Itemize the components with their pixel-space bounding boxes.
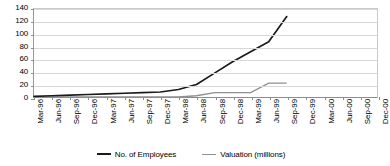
x-axis-tick-label: Dec-00 <box>381 99 390 124</box>
x-axis-tick-label: Jun-96 <box>54 99 63 123</box>
gridline <box>34 86 377 87</box>
x-axis-tick-label: Jun-99 <box>272 99 281 123</box>
y-axis-tick-mark <box>31 9 34 10</box>
x-axis-tick-label: Sep-00 <box>363 99 372 124</box>
x-axis-tick-label: Jun-97 <box>127 99 136 123</box>
gridline <box>34 9 377 10</box>
legend-item[interactable]: Valuation (millions) <box>202 150 285 159</box>
y-axis-tick-mark <box>31 48 34 49</box>
plot-area <box>33 8 378 98</box>
x-axis-tick-label: Mar-97 <box>109 99 118 124</box>
x-axis-tick-label: Sep-98 <box>218 99 227 124</box>
legend-swatch <box>97 153 111 155</box>
y-axis-tick-label: 20 <box>20 81 29 89</box>
y-axis-tick-label: 120 <box>15 17 28 25</box>
legend-swatch <box>202 154 216 155</box>
legend-item[interactable]: No. of Employees <box>97 150 177 159</box>
gridline <box>34 22 377 23</box>
legend-label: No. of Employees <box>115 150 177 159</box>
x-axis-tick-label: Dec-98 <box>236 99 245 124</box>
plot-wrapper: 020406080100120140 Mar-96Jun-96Sep-96Dec… <box>0 0 382 104</box>
y-axis-tick-label: 100 <box>15 30 28 38</box>
x-axis-tick-label: Sep-99 <box>290 99 299 124</box>
x-axis-tick-label: Mar-99 <box>254 99 263 124</box>
gridline <box>34 73 377 74</box>
legend-label: Valuation (millions) <box>220 150 285 159</box>
x-axis-tick-label: Sep-97 <box>145 99 154 124</box>
gridline <box>34 60 377 61</box>
x-axis-tick-label: Sep-96 <box>72 99 81 124</box>
y-axis-tick-mark <box>31 60 34 61</box>
y-axis-tick-mark <box>31 86 34 87</box>
y-axis-tick-label: 60 <box>20 55 29 63</box>
x-axis-tick-label: Dec-96 <box>90 99 99 124</box>
chart-legend: No. of EmployeesValuation (millions) <box>0 146 382 162</box>
y-axis-tick-label: 80 <box>20 43 29 51</box>
x-axis-tick-label: Mar-00 <box>327 99 336 124</box>
x-axis-tick-label: Mar-98 <box>181 99 190 124</box>
y-axis-tick-label: 40 <box>20 68 29 76</box>
gridline <box>34 35 377 36</box>
x-axis-tick-label: Jun-00 <box>345 99 354 123</box>
y-axis-tick-label: 140 <box>15 4 28 12</box>
x-axis-tick-label: Dec-99 <box>308 99 317 124</box>
y-axis-tick-mark <box>31 35 34 36</box>
x-axis-tick-label: Dec-97 <box>163 99 172 124</box>
y-axis-tick-mark <box>31 73 34 74</box>
gridline <box>34 48 377 49</box>
y-axis-tick-labels: 020406080100120140 <box>0 8 30 98</box>
y-axis-tick-label: 0 <box>24 94 28 102</box>
series-line-employees <box>34 17 287 97</box>
y-axis-tick-mark <box>31 22 34 23</box>
x-axis-tick-mark <box>379 97 380 100</box>
x-axis-tick-label: Mar-96 <box>36 99 45 124</box>
x-axis-tick-labels: Mar-96Jun-96Sep-96Dec-96Mar-97Jun-97Sep-… <box>33 99 378 144</box>
x-axis-tick-label: Jun-98 <box>199 99 208 123</box>
